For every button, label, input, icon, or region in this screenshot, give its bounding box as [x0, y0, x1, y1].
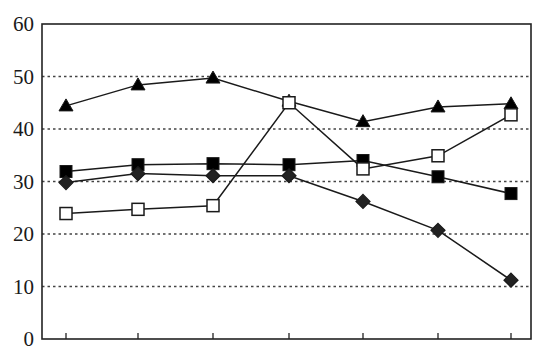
open-square-marker — [207, 200, 219, 212]
diamond-marker — [431, 223, 445, 237]
y-tick-label: 60 — [13, 12, 34, 36]
square-marker — [207, 158, 219, 170]
open-square-marker — [505, 109, 517, 121]
open-square-marker — [357, 163, 369, 175]
diamond-marker — [356, 194, 370, 208]
series-filled-diamond — [66, 174, 511, 281]
y-axis-ticks: 0102030405060 — [13, 12, 34, 351]
markers-filled-diamond — [59, 167, 518, 288]
triangle-marker — [504, 97, 518, 109]
diamond-marker — [504, 273, 518, 287]
open-square-marker — [283, 97, 295, 109]
y-tick-label: 50 — [13, 65, 34, 89]
open-square-marker — [132, 203, 144, 215]
markers-open-square — [60, 97, 517, 220]
y-tick-label: 20 — [13, 222, 34, 246]
y-tick-label: 0 — [24, 327, 35, 351]
open-square-marker — [60, 208, 72, 220]
open-square-marker — [432, 150, 444, 162]
data-series — [59, 71, 518, 287]
diamond-marker — [206, 169, 220, 183]
line-chart: 0102030405060 — [0, 0, 538, 359]
y-tick-label: 30 — [13, 170, 34, 194]
series-line — [66, 174, 511, 281]
x-axis-ticks — [66, 333, 511, 339]
square-marker — [505, 188, 517, 200]
y-tick-label: 10 — [13, 275, 34, 299]
y-tick-label: 40 — [13, 117, 34, 141]
square-marker — [432, 171, 444, 183]
